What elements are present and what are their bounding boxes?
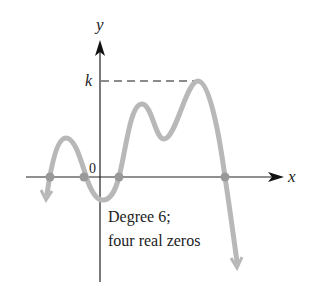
caption-line-2: four real zeros	[108, 232, 200, 249]
zero-point	[115, 173, 124, 182]
origin-label: 0	[89, 161, 96, 176]
zero-point	[221, 173, 230, 182]
polynomial-graph: y x k 0 Degree 6; four real zeros	[0, 0, 310, 286]
k-label: k	[85, 72, 93, 89]
caption-line-1: Degree 6;	[108, 208, 171, 226]
y-axis-label: y	[94, 15, 104, 34]
zero-point	[80, 173, 89, 182]
x-axis-label: x	[287, 167, 296, 186]
zero-point	[46, 173, 55, 182]
